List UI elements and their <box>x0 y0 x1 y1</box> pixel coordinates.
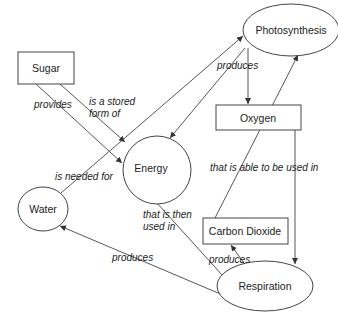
node-respiration-label: Respiration <box>238 280 291 292</box>
label-provides: provides <box>33 99 72 110</box>
label-produces-co2: produces <box>208 254 250 265</box>
label-used-in: used in <box>143 221 176 232</box>
node-oxygen: Oxygen <box>216 105 301 130</box>
node-water: Water <box>18 187 68 231</box>
node-oxygen-label: Oxygen <box>240 112 276 124</box>
node-carbon-dioxide: Carbon Dioxide <box>203 218 288 244</box>
node-energy: Energy <box>123 136 191 204</box>
node-respiration: Respiration <box>217 261 313 311</box>
node-carbon-dioxide-label: Carbon Dioxide <box>209 225 282 237</box>
node-sugar-label: Sugar <box>32 62 61 74</box>
concept-map-canvas: Sugar Photosynthesis Oxygen Energy Water… <box>0 0 338 323</box>
node-energy-label: Energy <box>134 162 168 174</box>
node-photosynthesis: Photosynthesis <box>243 4 338 56</box>
node-photosynthesis-label: Photosynthesis <box>255 24 326 36</box>
label-produces-water: produces <box>111 252 153 263</box>
label-able-to-be-used-in: that is able to be used in <box>210 162 319 173</box>
label-that-is-then: that is then <box>143 209 192 220</box>
label-form-of: form of <box>89 108 121 119</box>
edge-co2-used-in-photosynthesis <box>215 55 298 218</box>
label-produces-photosynthesis: produces <box>216 60 258 71</box>
node-sugar: Sugar <box>18 52 74 84</box>
label-is-a-stored: is a stored <box>89 96 136 107</box>
node-water-label: Water <box>29 203 57 215</box>
label-is-needed-for: is needed for <box>55 171 113 182</box>
